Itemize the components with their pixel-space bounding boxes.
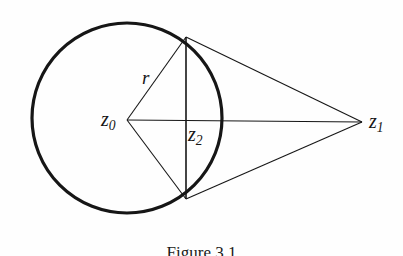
label-z1-subscript: 1 xyxy=(377,120,384,135)
radius-line-lower xyxy=(127,120,186,199)
label-z0: z0 xyxy=(101,109,116,133)
radius-line-upper xyxy=(127,37,186,120)
label-z1-base: z xyxy=(369,110,377,132)
figure-caption: Figure 3.1 xyxy=(0,243,403,256)
label-radius-base: r xyxy=(142,67,149,88)
label-z2: z2 xyxy=(188,124,203,148)
label-z0-base: z xyxy=(101,108,109,130)
axis-line-z0-z1 xyxy=(127,120,362,122)
main-circle xyxy=(32,23,222,213)
label-z1: z1 xyxy=(369,111,384,135)
label-radius: r xyxy=(142,68,149,87)
label-z0-subscript: 0 xyxy=(109,118,116,133)
label-z2-base: z xyxy=(188,123,196,145)
label-z2-subscript: 2 xyxy=(196,133,203,148)
figure-container: z0 z2 z1 r Figure 3.1 xyxy=(0,0,403,256)
